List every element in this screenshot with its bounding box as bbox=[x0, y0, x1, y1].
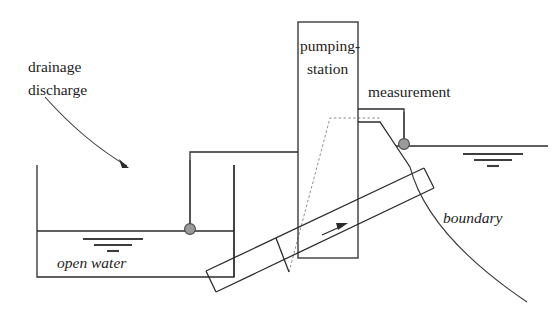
diagram-canvas: drainage discharge pumping- station meas… bbox=[0, 0, 552, 333]
water-level-symbol-right bbox=[463, 154, 523, 166]
label-open-water: open water bbox=[57, 254, 127, 271]
label-pumping-line2: station bbox=[307, 60, 349, 77]
measurement-structure bbox=[358, 109, 410, 167]
pressure-pipe bbox=[206, 168, 434, 292]
water-level-sensor-left bbox=[185, 160, 196, 234]
embankment-slope bbox=[276, 238, 289, 272]
drainage-discharge-curve bbox=[45, 97, 129, 168]
boundary-curve bbox=[410, 167, 527, 302]
flow-direction-arrow bbox=[322, 223, 348, 235]
label-boundary: boundary bbox=[443, 209, 503, 226]
label-pumping-line1: pumping- bbox=[300, 37, 360, 54]
label-measurement: measurement bbox=[368, 83, 451, 100]
hydraulic-schematic-svg: drainage discharge pumping- station meas… bbox=[0, 0, 552, 333]
water-level-symbol-left bbox=[83, 239, 143, 251]
inlet-channel bbox=[190, 152, 298, 277]
water-level-sensor-right bbox=[399, 112, 410, 149]
label-drainage-line1: drainage bbox=[28, 58, 81, 75]
label-drainage-line2: discharge bbox=[28, 81, 87, 98]
